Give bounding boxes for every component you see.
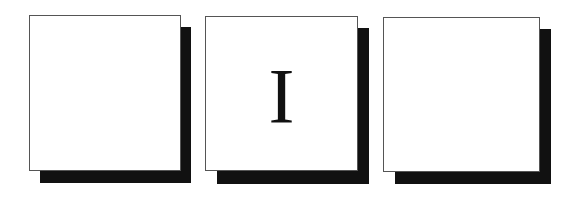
tile-2-letter: I (269, 57, 295, 135)
tile-1-face (29, 15, 181, 171)
tile-3-face (383, 17, 540, 172)
tile-2-face: I (205, 16, 358, 171)
